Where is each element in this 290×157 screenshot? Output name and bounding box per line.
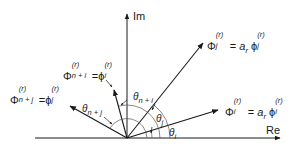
label-phi-j: Φ(r)j= ar ϕ(r)j xyxy=(207,38,271,52)
theta-n-plus-i-pointer xyxy=(121,100,127,105)
theta-n-plus-j-pointer xyxy=(104,117,112,124)
theta-i-pointer xyxy=(151,127,152,133)
imaginary-axis-label: Im xyxy=(133,11,145,22)
label-phi-n-plus-j: Φ(r)n + j=ϕ(r)j xyxy=(10,92,65,106)
real-axis-label: Re xyxy=(266,125,280,136)
angle-label-theta-n-plus-i: θn + i xyxy=(133,92,153,102)
angle-label-theta-i: θi xyxy=(169,128,176,138)
angle-label-theta-n-plus-j: θn + j xyxy=(82,104,102,114)
vector-phi-n-plus-i xyxy=(114,90,127,138)
label-phi-n-plus-i: Φ(r)n + i=ϕ(r)i xyxy=(63,68,118,82)
angle-arc-theta-n-plus-j xyxy=(110,119,147,138)
complex-plane-diagram xyxy=(0,0,290,157)
angle-label-theta-j: θj xyxy=(156,114,163,124)
label-phi-i: Φ(r)i= ar ϕ(r)i xyxy=(225,104,289,118)
